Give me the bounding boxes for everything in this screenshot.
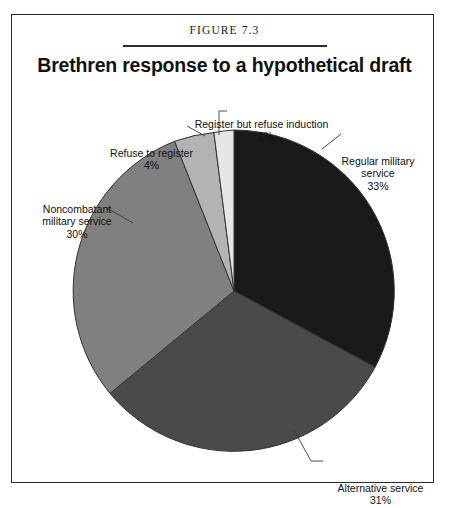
pie-label-register-but-refuse-induction: Register but refuse induction 2% <box>179 105 344 155</box>
pie-label-alternative-service: Alternative service 31% <box>318 469 443 508</box>
pie-label-percent: 4% <box>94 159 209 172</box>
pie-label-percent: 31% <box>318 494 443 507</box>
pie-chart: Regular military service 33% Alternative… <box>11 14 434 483</box>
pie-label-text: Register but refuse induction <box>195 118 329 130</box>
pie-label-percent: 30% <box>24 228 130 241</box>
pie-label-text: Noncombatant military service <box>42 203 111 228</box>
pie-label-text: Regular military service <box>342 155 415 180</box>
pie-label-percent: 33% <box>323 180 433 193</box>
pie-label-text: Alternative service <box>338 482 424 494</box>
pie-label-percent: 2% <box>179 130 344 143</box>
pie-label-noncombatant-military-service: Noncombatant military service 30% <box>24 190 130 253</box>
